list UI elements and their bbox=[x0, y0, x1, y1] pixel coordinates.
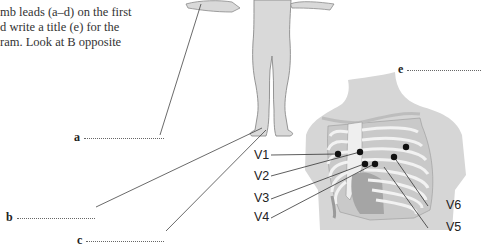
leader-lines bbox=[96, 4, 266, 231]
lead-label-v5: V5 bbox=[446, 220, 461, 234]
label-e: e bbox=[398, 62, 481, 77]
electrode-v1 bbox=[335, 151, 341, 157]
label-a: a bbox=[74, 130, 164, 145]
electrode-v2 bbox=[357, 149, 363, 155]
electrode-v6 bbox=[403, 144, 409, 150]
answer-blank-e[interactable] bbox=[407, 69, 481, 71]
label-letter: b bbox=[6, 210, 13, 225]
lead-label-v4: V4 bbox=[254, 210, 269, 224]
label-b: b bbox=[6, 210, 95, 225]
answer-blank-a[interactable] bbox=[84, 137, 164, 139]
answer-blank-c[interactable] bbox=[86, 240, 164, 242]
label-letter: a bbox=[74, 130, 80, 145]
lead-label-v2: V2 bbox=[254, 169, 269, 183]
label-letter: e bbox=[398, 62, 403, 77]
electrode-v3 bbox=[362, 161, 368, 167]
lead-label-v3: V3 bbox=[254, 191, 269, 205]
lead-label-v6: V6 bbox=[446, 198, 461, 212]
label-letter: c bbox=[77, 233, 82, 247]
body-figure bbox=[186, 0, 334, 136]
electrode-v4 bbox=[372, 161, 378, 167]
label-c: c bbox=[77, 233, 164, 247]
chest-diagram bbox=[305, 72, 466, 230]
lead-label-v1: V1 bbox=[254, 148, 269, 162]
answer-blank-b[interactable] bbox=[17, 217, 95, 219]
electrode-v5 bbox=[391, 154, 397, 160]
